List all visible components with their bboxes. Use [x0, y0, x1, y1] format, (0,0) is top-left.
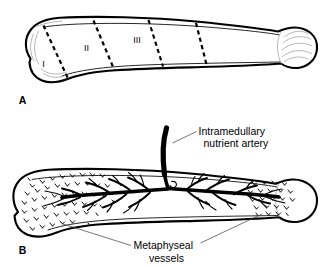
panel-letter-b: B: [19, 244, 27, 256]
callout-nutrient-artery-line2: nutrient artery: [204, 137, 270, 149]
zone-label-3: III: [133, 35, 141, 45]
panel-letter-a: A: [19, 94, 27, 106]
zone-label-1: I: [42, 59, 45, 69]
callout-metaphyseal-line1: Metaphyseal: [134, 239, 194, 251]
callout-metaphyseal-line2: vessels: [149, 252, 184, 264]
callout-nutrient-artery-line1: Intramedullary: [199, 125, 266, 137]
zone-label-2: II: [84, 43, 89, 53]
figure-canvas: I II III A: [0, 0, 329, 267]
anatomical-figure: I II III A: [0, 0, 329, 267]
